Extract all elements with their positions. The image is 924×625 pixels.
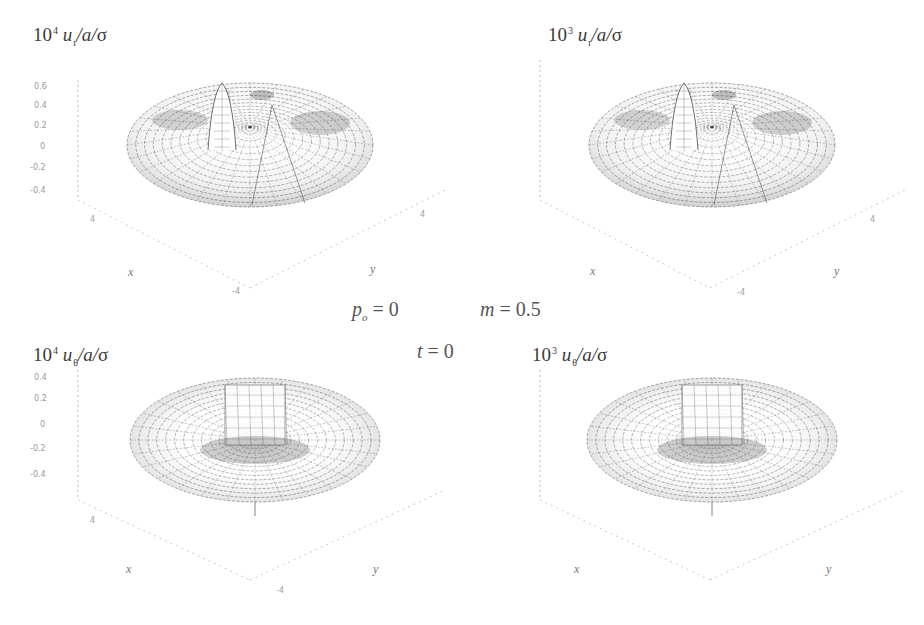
surface-plots-graphic (0, 0, 924, 625)
